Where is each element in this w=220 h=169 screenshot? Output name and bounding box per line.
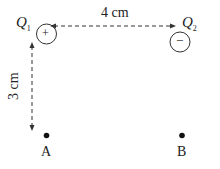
point-a-dot: [44, 133, 50, 139]
plus-sign-icon: +: [42, 26, 49, 41]
arrowhead-down-icon: [30, 125, 35, 131]
charge-q2-subscript: 2: [193, 24, 197, 33]
point-a-label: A: [41, 144, 51, 160]
charge-q2-label: Q2: [182, 14, 197, 33]
point-b-label: B: [177, 144, 186, 160]
minus-sign-icon: −: [176, 33, 183, 49]
arrowhead-right-icon: [170, 24, 176, 29]
charge-q2-symbol: Q: [182, 14, 193, 30]
point-b-dot: [179, 133, 185, 139]
arrowhead-up-icon: [30, 42, 35, 48]
horizontal-distance-label: 4 cm: [101, 5, 129, 21]
charge-q1-label: Q1: [16, 14, 31, 33]
charge-q1-subscript: 1: [27, 24, 31, 33]
charge-q1-symbol: Q: [16, 14, 27, 30]
vertical-distance-label: 3 cm: [6, 72, 22, 100]
